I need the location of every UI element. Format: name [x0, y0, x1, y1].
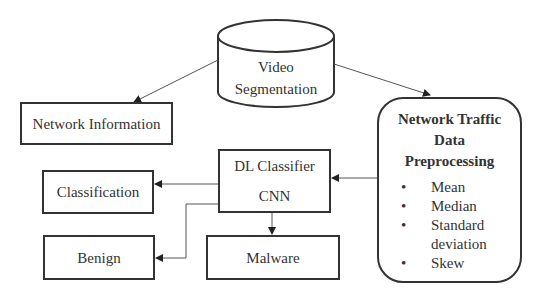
- node-video-segmentation: Video Segmentation: [217, 56, 335, 100]
- node-network-traffic-preprocessing: Network Traffic Data Preprocessing •Mean…: [377, 97, 522, 283]
- title-line-3: Preprocessing: [379, 151, 520, 172]
- node-network-information: Network Information: [20, 102, 173, 145]
- node-dl-classifier: DL Classifier CNN: [218, 149, 331, 213]
- title-line-2: Data: [379, 130, 520, 151]
- feature-item: •Skew: [379, 254, 520, 273]
- feature-mean: Mean: [431, 179, 465, 195]
- network-traffic-title: Network Traffic Data Preprocessing: [379, 109, 520, 172]
- bullet-icon: •: [401, 254, 406, 273]
- feature-item: •Median: [379, 197, 520, 216]
- cnn-label: CNN: [259, 187, 291, 205]
- video-segmentation-line1: Video: [217, 56, 335, 78]
- feature-item-continuation: deviation: [379, 235, 520, 254]
- title-line-1: Network Traffic: [379, 109, 520, 130]
- classification-label: Classification: [57, 183, 140, 201]
- feature-list: •Mean •Median •Standard deviation •Skew: [379, 178, 520, 273]
- bullet-icon: •: [401, 178, 406, 197]
- feature-item: •Mean: [379, 178, 520, 197]
- diagram-canvas: Video Segmentation Network Information N…: [0, 0, 537, 296]
- feature-deviation: deviation: [431, 236, 487, 252]
- edge-video-to-traffic: [334, 64, 430, 95]
- feature-median: Median: [431, 198, 477, 214]
- video-segmentation-line2: Segmentation: [217, 78, 335, 100]
- dl-classifier-label: DL Classifier: [234, 157, 315, 175]
- benign-label: Benign: [77, 249, 120, 267]
- node-benign: Benign: [43, 235, 155, 280]
- feature-standard: Standard: [431, 217, 484, 233]
- bullet-icon: •: [401, 197, 406, 216]
- feature-item: •Standard: [379, 216, 520, 235]
- network-information-label: Network Information: [33, 115, 161, 133]
- bullet-icon: •: [401, 216, 406, 235]
- feature-skew: Skew: [431, 255, 464, 271]
- node-malware: Malware: [206, 235, 340, 280]
- edge-video-to-network-info: [134, 60, 218, 102]
- node-classification: Classification: [42, 170, 154, 214]
- malware-label: Malware: [246, 249, 299, 267]
